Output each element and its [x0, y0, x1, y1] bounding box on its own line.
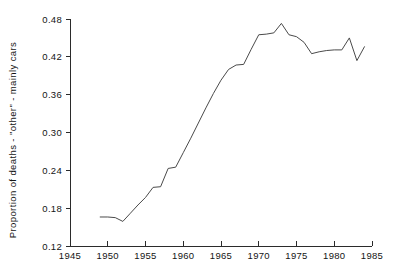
x-axis-tick-label: 1975 — [285, 250, 307, 261]
x-axis-tick-mark-group — [70, 241, 372, 246]
x-axis-tick-label: 1985 — [361, 250, 383, 261]
x-axis-tick-label: 1960 — [172, 250, 194, 261]
x-axis-tick-label: 1955 — [134, 250, 156, 261]
y-axis-tick-label: 0.42 — [42, 51, 62, 62]
x-axis-tick-label-group: 194519501955196019651970197519801985 — [59, 250, 383, 261]
x-axis-tick-label: 1950 — [97, 250, 119, 261]
y-axis-tick-label: 0.30 — [42, 127, 62, 138]
y-axis-tick-label: 0.48 — [42, 14, 62, 25]
x-axis-tick-label: 1980 — [323, 250, 345, 261]
x-axis-tick-label: 1970 — [248, 250, 270, 261]
y-axis-tick-label: 0.36 — [42, 89, 62, 100]
y-axis-tick-mark-group — [66, 19, 70, 246]
line-chart-canvas: 0.120.180.240.300.360.420.48 19451950195… — [0, 0, 393, 280]
y-axis-title: Proportion of deaths - "other" - mainly … — [7, 42, 18, 238]
y-axis-tick-label-group: 0.120.180.240.300.360.420.48 — [42, 14, 62, 252]
x-axis-tick-label: 1945 — [59, 250, 81, 261]
chart-figure: 0.120.180.240.300.360.420.48 19451950195… — [0, 0, 393, 280]
data-series-line — [100, 23, 364, 221]
x-axis-tick-label: 1965 — [210, 250, 232, 261]
y-axis-tick-label: 0.24 — [42, 165, 62, 176]
y-axis-tick-label: 0.18 — [42, 203, 62, 214]
